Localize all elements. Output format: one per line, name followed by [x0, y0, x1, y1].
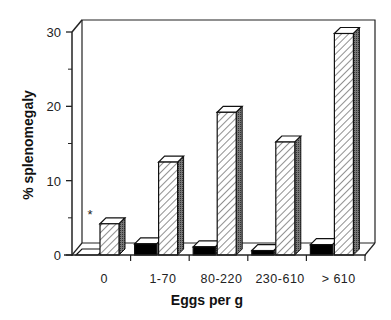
bars: * — [76, 27, 359, 255]
y-tick-label: 30 — [47, 25, 61, 40]
y-tick-label: 0 — [54, 248, 61, 263]
x-axis-title: Eggs per g — [171, 292, 243, 308]
bar-series2-4 — [334, 27, 359, 255]
x-tick-label: 80-220 — [201, 272, 243, 286]
x-tick-label: 0 — [101, 272, 108, 286]
bar-series2-1 — [159, 156, 184, 255]
x-tick-label: 1-70 — [149, 272, 176, 286]
x-tick-label: > 610 — [322, 272, 356, 286]
y-axis-title: % splenomegaly — [20, 90, 36, 200]
x-axis: 01-7080-220230-610> 610 — [64, 255, 366, 286]
significance-asterisk: * — [87, 207, 92, 222]
bar-series2-3 — [276, 136, 301, 255]
y-tick-label: 20 — [47, 99, 61, 114]
y-axis: 0102030 — [47, 25, 72, 263]
bar-series2-0 — [100, 218, 125, 255]
y-tick-label: 10 — [47, 174, 61, 189]
bar-series2-2 — [217, 106, 242, 255]
x-tick-label: 230-610 — [255, 272, 304, 286]
bar-chart: 0102030 * 01-7080-220230-610> 610 % sple… — [0, 0, 391, 320]
